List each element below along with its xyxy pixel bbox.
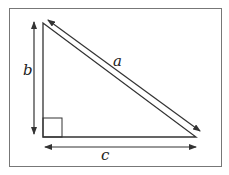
label-a: a <box>113 52 122 70</box>
triangle-diagram: b a c <box>0 0 229 175</box>
frame <box>10 9 222 167</box>
label-c: c <box>101 146 110 164</box>
label-b: b <box>23 61 33 79</box>
